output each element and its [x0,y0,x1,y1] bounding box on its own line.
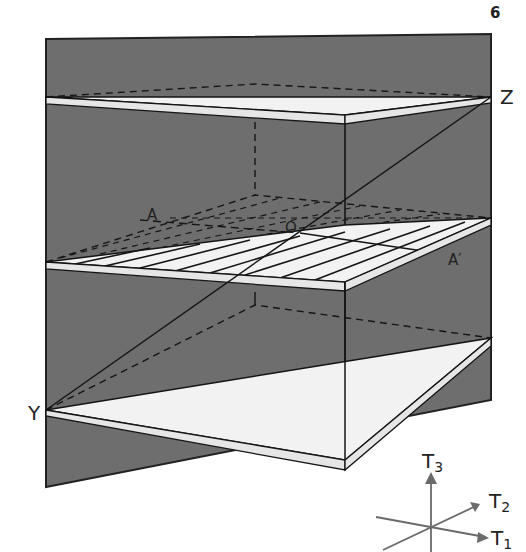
stacked-planes-diagram: 6 [0,0,526,552]
t2-arrow-icon [470,502,480,512]
t1-arrow-icon [477,532,489,543]
axis-label-t2: T2 [488,489,510,515]
axis-label-t3: T3 [421,449,443,475]
label-a-prime: A′ [448,251,462,269]
label-a: A [147,206,158,224]
axis-label-t1: T1 [490,526,512,552]
label-y: Y [27,401,41,425]
axes-indicator [376,472,489,552]
label-o: O [285,219,297,237]
label-z: Z [500,85,514,109]
page-number: 6 [490,4,500,22]
